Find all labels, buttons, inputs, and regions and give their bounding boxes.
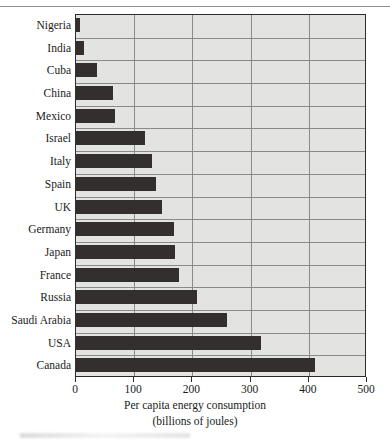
x-tick-label: 300 <box>230 383 270 395</box>
x-tick-label: 0 <box>55 383 95 395</box>
bar-uk <box>75 200 162 214</box>
category-label-nigeria: Nigeria <box>0 14 71 37</box>
x-tick <box>191 377 192 382</box>
bar-row <box>75 196 366 219</box>
bar-row <box>75 241 366 264</box>
bar-row <box>75 218 366 241</box>
bar-row <box>75 150 366 173</box>
category-label-cuba: Cuba <box>0 59 71 82</box>
category-label-china: China <box>0 82 71 105</box>
category-label-japan: Japan <box>0 241 71 264</box>
bar-chart-figure: NigeriaIndiaCubaChinaMexicoIsraelItalySp… <box>0 0 390 443</box>
bar-cuba <box>75 63 97 77</box>
bar-row <box>75 105 366 128</box>
x-tick-label: 400 <box>288 383 328 395</box>
category-label-mexico: Mexico <box>0 105 71 128</box>
bar-italy <box>75 154 152 168</box>
x-tick <box>308 377 309 382</box>
category-label-canada: Canada <box>0 354 71 377</box>
bar-usa <box>75 336 261 350</box>
bar-row <box>75 59 366 82</box>
bar-spain <box>75 177 156 191</box>
x-tick <box>133 377 134 382</box>
bar-germany <box>75 222 174 236</box>
x-tick-label: 200 <box>171 383 211 395</box>
category-label-israel: Israel <box>0 127 71 150</box>
category-label-france: France <box>0 264 71 287</box>
bar-row <box>75 37 366 60</box>
bars-container <box>75 14 366 377</box>
category-label-usa: USA <box>0 332 71 355</box>
category-label-saudi-arabia: Saudi Arabia <box>0 309 71 332</box>
x-axis-title-line2: (billions of joules) <box>0 415 390 427</box>
bar-saudi-arabia <box>75 313 227 327</box>
bar-row <box>75 354 366 377</box>
bar-row <box>75 14 366 37</box>
x-axis-title-line1: Per capita energy consumption <box>0 399 390 411</box>
x-tick <box>75 377 76 382</box>
category-axis-labels: NigeriaIndiaCubaChinaMexicoIsraelItalySp… <box>0 14 71 377</box>
bar-row <box>75 332 366 355</box>
bar-row <box>75 286 366 309</box>
bar-russia <box>75 290 197 304</box>
x-tick <box>250 377 251 382</box>
category-label-russia: Russia <box>0 286 71 309</box>
bar-france <box>75 268 179 282</box>
x-tick <box>366 377 367 382</box>
bar-row <box>75 127 366 150</box>
category-label-uk: UK <box>0 196 71 219</box>
category-label-germany: Germany <box>0 218 71 241</box>
bar-japan <box>75 245 175 259</box>
bar-row <box>75 264 366 287</box>
bar-israel <box>75 131 145 145</box>
x-tick-label: 500 <box>346 383 386 395</box>
category-label-spain: Spain <box>0 173 71 196</box>
category-label-india: India <box>0 37 71 60</box>
bar-row <box>75 173 366 196</box>
bar-china <box>75 86 113 100</box>
bar-nigeria <box>75 18 80 32</box>
category-label-italy: Italy <box>0 150 71 173</box>
bar-india <box>75 41 84 55</box>
bar-row <box>75 82 366 105</box>
bar-row <box>75 309 366 332</box>
bar-mexico <box>75 109 115 123</box>
scan-artifact <box>20 433 190 438</box>
x-tick-label: 100 <box>113 383 153 395</box>
bar-canada <box>75 358 315 372</box>
